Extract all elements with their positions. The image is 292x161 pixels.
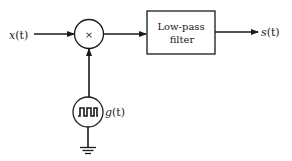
input-label: x(t) <box>9 29 28 42</box>
multiply-icon: × <box>85 29 93 40</box>
filter-label-line2: filter <box>170 34 195 45</box>
output-label: s(t) <box>261 26 280 39</box>
multiplier-node: × <box>75 20 104 49</box>
diagram-canvas: x(t) × Low-pass filter s(t) g(t) <box>0 0 292 161</box>
low-pass-filter-block: Low-pass filter <box>147 11 215 54</box>
ground-icon <box>80 148 96 154</box>
signal-generator <box>73 97 103 127</box>
generator-label: g(t) <box>105 106 125 119</box>
filter-label-line1: Low-pass <box>157 21 204 32</box>
